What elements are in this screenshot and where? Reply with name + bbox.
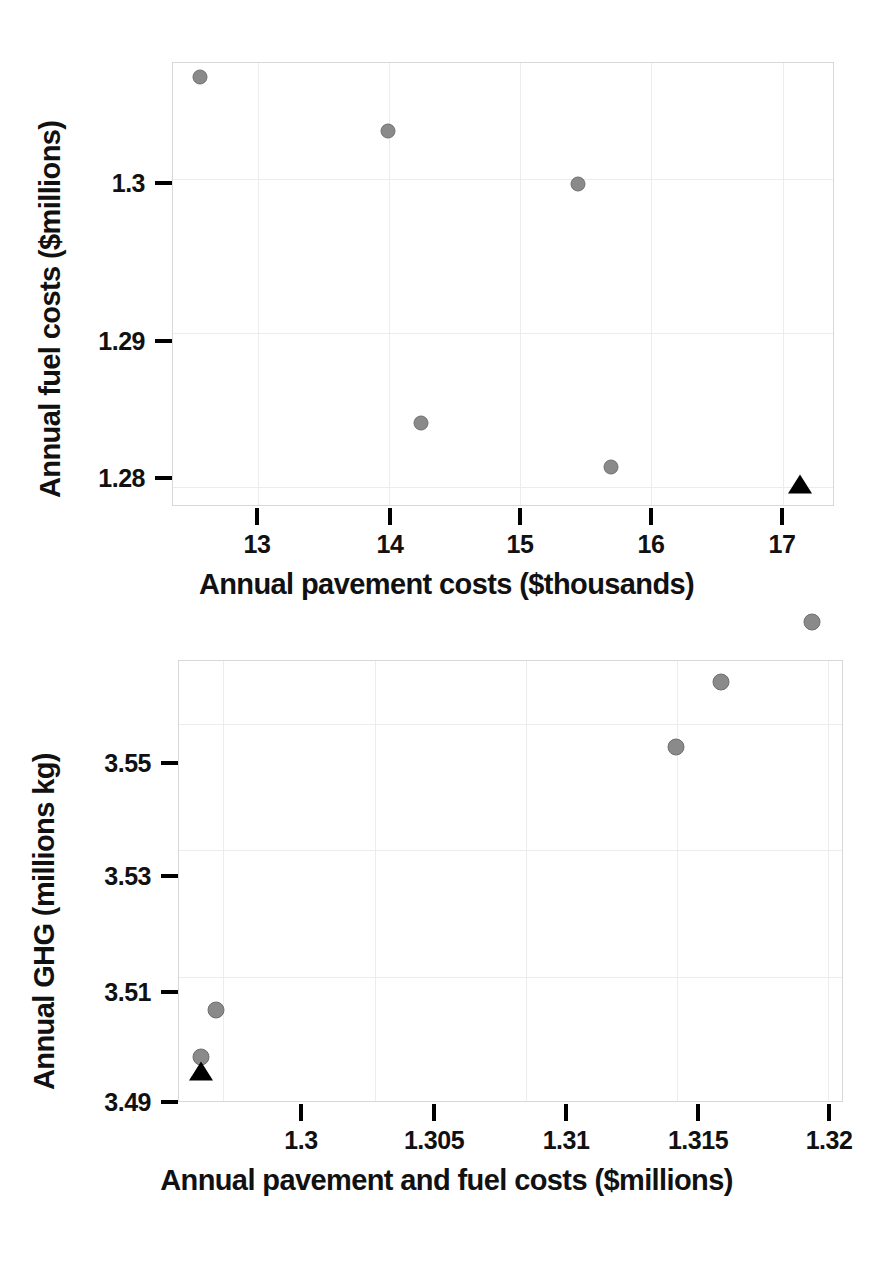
- x-ticklabel-top-0: 13: [244, 530, 271, 559]
- y-tick-bottom-1: [161, 874, 178, 878]
- y-axis-title-top: Annual fuel costs ($millions): [34, 121, 67, 498]
- x-axis-title-top: Annual pavement costs ($thousands): [0, 568, 893, 601]
- data-point-circle: [604, 460, 619, 475]
- y-tick-top-1: [155, 339, 172, 343]
- x-tick-bottom-0: [299, 1104, 303, 1121]
- gridline-vertical: [828, 661, 829, 1101]
- x-tick-bottom-3: [696, 1104, 700, 1121]
- gridline-vertical: [651, 63, 652, 505]
- data-point-triangle: [189, 1062, 213, 1081]
- x-tick-bottom-2: [564, 1104, 568, 1121]
- x-tick-top-2: [518, 508, 522, 525]
- gridline-vertical: [258, 63, 259, 505]
- gridline-vertical: [783, 63, 784, 505]
- plot-area-bottom: [178, 660, 843, 1102]
- gridline-horizontal: [179, 850, 842, 851]
- y-tick-bottom-2: [161, 990, 178, 994]
- x-ticklabel-top-2: 15: [507, 530, 534, 559]
- gridline-horizontal: [179, 724, 842, 725]
- gridline-vertical: [520, 63, 521, 505]
- gridline-vertical: [223, 661, 224, 1101]
- data-point-circle: [713, 674, 730, 691]
- y-ticklabel-bottom-3: 3.49: [35, 1088, 151, 1117]
- x-tick-bottom-4: [827, 1104, 831, 1121]
- data-point-circle: [192, 70, 207, 85]
- data-point-triangle: [788, 475, 812, 494]
- y-tick-bottom-3: [161, 1100, 178, 1104]
- x-ticklabel-bottom-1: 1.305: [404, 1126, 464, 1155]
- gridline-vertical: [526, 661, 527, 1101]
- gridline-vertical: [677, 661, 678, 1101]
- data-point-circle: [208, 1002, 225, 1019]
- y-tick-top-2: [155, 476, 172, 480]
- gridline-horizontal: [179, 977, 842, 978]
- x-tick-top-4: [780, 508, 784, 525]
- plot-area-top: [172, 62, 834, 506]
- data-point-circle: [381, 124, 396, 139]
- gridline-horizontal: [173, 179, 833, 180]
- x-ticklabel-bottom-3: 1.315: [668, 1126, 728, 1155]
- x-ticklabel-bottom-0: 1.3: [284, 1126, 317, 1155]
- data-point-circle: [571, 176, 586, 191]
- y-tick-bottom-0: [161, 761, 178, 765]
- y-tick-top-0: [155, 181, 172, 185]
- x-tick-bottom-1: [432, 1104, 436, 1121]
- data-point-circle: [414, 415, 429, 430]
- gridline-horizontal: [173, 487, 833, 488]
- gridline-horizontal: [173, 333, 833, 334]
- x-ticklabel-bottom-2: 1.31: [543, 1126, 590, 1155]
- x-ticklabel-bottom-4: 1.32: [806, 1126, 853, 1155]
- x-tick-top-0: [255, 508, 259, 525]
- x-tick-top-3: [649, 508, 653, 525]
- x-ticklabel-top-3: 16: [638, 530, 665, 559]
- x-ticklabel-top-4: 17: [769, 530, 796, 559]
- x-axis-title-bottom: Annual pavement and fuel costs ($million…: [0, 1164, 893, 1197]
- x-tick-top-1: [388, 508, 392, 525]
- x-ticklabel-top-1: 14: [377, 530, 404, 559]
- data-point-circle: [667, 739, 684, 756]
- y-axis-title-bottom: Annual GHG (millions kg): [28, 753, 61, 1090]
- gridline-vertical: [375, 661, 376, 1101]
- data-point-circle: [803, 614, 820, 631]
